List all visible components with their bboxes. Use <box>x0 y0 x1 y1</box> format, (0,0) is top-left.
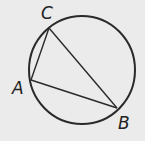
segment-cb <box>49 28 117 108</box>
inscribed-triangle-figure: C A B <box>0 0 145 141</box>
vertex-label-b: B <box>118 113 130 133</box>
segment-ab <box>31 80 117 108</box>
vertex-label-a: A <box>11 78 24 98</box>
vertex-label-c: C <box>41 3 53 23</box>
geometry-diagram: C A B <box>0 0 145 141</box>
circle <box>29 16 135 124</box>
